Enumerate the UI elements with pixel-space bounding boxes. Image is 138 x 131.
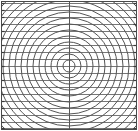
plot-canvas: [0, 0, 138, 131]
radial-grid-figure: [0, 0, 138, 131]
